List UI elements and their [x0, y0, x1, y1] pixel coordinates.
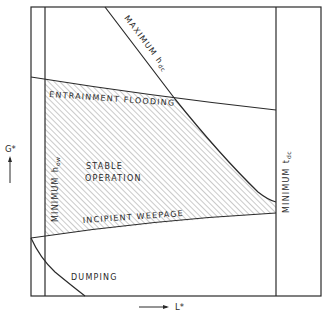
x-axis-label: L* — [175, 302, 184, 312]
minimum-tdc-label: MINIMUMtdc — [282, 151, 292, 213]
operation-label: OPERATION — [85, 174, 142, 183]
operating-window-diagram: MAXIMUMhdc ENTRAINMENT FLOODING STABLE O… — [0, 0, 328, 318]
x-axis-arrowhead-icon — [163, 305, 169, 309]
dumping-line — [31, 238, 85, 296]
dumping-label: DUMPING — [71, 273, 118, 282]
minimum-how-label: MINIMUMhow — [51, 156, 61, 222]
maximum-hdc-label: MAXIMUMhdc — [122, 14, 170, 73]
stable-label: STABLE — [86, 162, 123, 171]
y-axis-arrowhead-icon — [8, 156, 12, 162]
y-axis-label: G* — [5, 144, 16, 154]
